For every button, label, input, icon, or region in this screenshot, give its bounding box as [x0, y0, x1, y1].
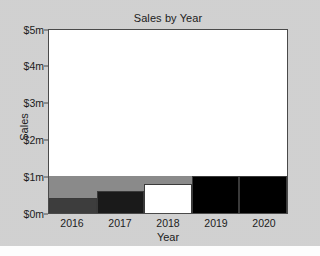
- bar-2016: [49, 198, 97, 213]
- y-axis-tick-label-4: $4m: [24, 60, 44, 72]
- chart-screenshot: Sales by Year $0m $1m $2m $3m $4m $5m Sa…: [0, 0, 320, 256]
- y-axis-tick-label-0: $0m: [24, 208, 44, 220]
- x-axis-tick-label-2020: 2020: [240, 217, 288, 229]
- x-axis-tick-label-2016: 2016: [48, 217, 96, 229]
- bar-2019: [192, 176, 240, 213]
- x-axis-tick-label-2017: 2017: [96, 217, 144, 229]
- bar-series: [49, 176, 287, 213]
- bar-2017: [97, 191, 145, 213]
- bar-2020: [239, 176, 287, 213]
- y-axis-tick-label-5: $5m: [24, 24, 44, 36]
- figure-bottom-margin: [0, 246, 320, 256]
- x-axis-tick-labels: 2016 2017 2018 2019 2020: [48, 217, 288, 229]
- x-axis-tick-label-2019: 2019: [192, 217, 240, 229]
- y-axis-title: Sales: [18, 97, 30, 157]
- chart-title: Sales by Year: [48, 12, 288, 24]
- bar-2018: [144, 184, 192, 213]
- x-axis-tick-label-2018: 2018: [144, 217, 192, 229]
- plot-area: [48, 29, 288, 214]
- y-axis-tick-label-1: $1m: [24, 171, 44, 183]
- x-axis-title: Year: [48, 231, 288, 243]
